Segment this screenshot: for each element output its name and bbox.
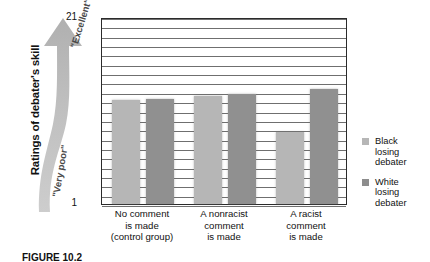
- bar-black-losing-debater-group-3: [276, 132, 304, 204]
- x-axis-label-group-1: No commentis made(control group): [101, 208, 183, 243]
- legend-item-black-losing-debater: Blacklosingdebater: [362, 136, 428, 168]
- legend-label-line: Black: [375, 136, 428, 147]
- x-axis-label-line: is made: [101, 220, 183, 232]
- legend-label-line: White: [375, 177, 428, 188]
- x-axis-label-line: A nonracist: [183, 208, 265, 220]
- bar-black-losing-debater-group-2: [194, 96, 222, 204]
- legend-label: Blacklosingdebater: [375, 136, 428, 168]
- legend-item-white-losing-debater: Whitelosingdebater: [362, 177, 428, 209]
- y-tick-label-max: 21: [37, 11, 77, 22]
- x-axis-label-group-3: A racistcommentis made: [265, 208, 347, 243]
- legend-label: Whitelosingdebater: [375, 177, 428, 209]
- bar-black-losing-debater-group-1: [112, 100, 140, 204]
- x-axis-label-line: A racist: [265, 208, 347, 220]
- legend-label-line: debater: [375, 157, 428, 168]
- legend-swatch-white-losing-debater: [362, 179, 369, 186]
- plot-area: [101, 18, 347, 205]
- x-axis-labels: No commentis made(control group)A nonrac…: [101, 208, 347, 254]
- gridline: [102, 206, 346, 207]
- bar-series-container: [102, 19, 346, 204]
- legend-label-line: debater: [375, 198, 428, 209]
- legend-label-line: losing: [375, 187, 428, 198]
- bar-white-losing-debater-group-2: [228, 94, 256, 204]
- x-axis-label-line: (control group): [101, 231, 183, 243]
- x-axis-label-line: No comment: [101, 208, 183, 220]
- x-axis-label-line: is made: [183, 231, 265, 243]
- x-axis-label-line: is made: [265, 231, 347, 243]
- y-tick-label-min: 1: [37, 197, 77, 208]
- figure-caption: FIGURE 10.2: [22, 252, 82, 262]
- x-axis-label-line: comment: [265, 220, 347, 232]
- figure-container: Ratings of debater's skill "Excellent" "…: [0, 0, 430, 262]
- legend-swatch-black-losing-debater: [362, 138, 369, 145]
- bar-white-losing-debater-group-1: [146, 99, 174, 204]
- x-axis-label-line: comment: [183, 220, 265, 232]
- x-axis-label-group-2: A nonracistcommentis made: [183, 208, 265, 243]
- legend-label-line: losing: [375, 147, 428, 158]
- legend: BlacklosingdebaterWhitelosingdebater: [362, 136, 428, 218]
- bar-white-losing-debater-group-3: [310, 89, 338, 204]
